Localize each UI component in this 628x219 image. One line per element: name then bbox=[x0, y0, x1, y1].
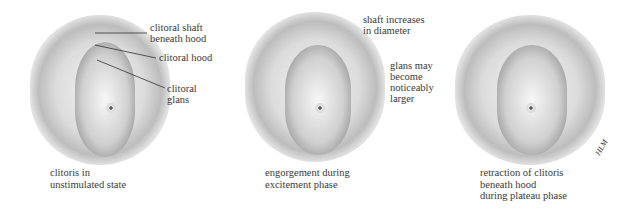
labia-excitement bbox=[285, 45, 351, 155]
caption-unstimulated: clitoris in unstimulated state bbox=[50, 167, 126, 190]
label-clitoral-hood: clitoral hood bbox=[159, 52, 212, 63]
caption-excitement: engorgement during excitement phase bbox=[265, 167, 350, 190]
label-clitoral-shaft: clitoral shaft beneath hood bbox=[150, 22, 206, 44]
landmark-dot bbox=[315, 103, 325, 113]
caption-plateau: retraction of clitoris beneath hood duri… bbox=[480, 167, 567, 202]
labia-plateau bbox=[497, 45, 567, 155]
landmark-dot bbox=[526, 103, 536, 113]
label-glans-larger: glans may become noticeably larger bbox=[390, 60, 434, 104]
label-clitoral-glans: clitoral glans bbox=[167, 83, 197, 105]
label-shaft-increases: shaft increases in diameter bbox=[363, 14, 425, 36]
